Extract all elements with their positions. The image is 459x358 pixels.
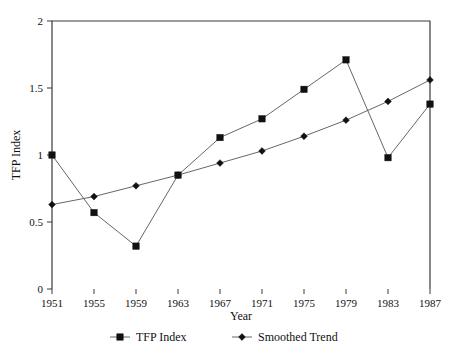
data-point-marker-square bbox=[117, 334, 123, 340]
x-tick-label: 1983 bbox=[377, 297, 400, 309]
legend-label: Smoothed Trend bbox=[258, 330, 338, 344]
data-point-marker-square bbox=[301, 86, 307, 92]
data-point-marker-square bbox=[49, 152, 55, 158]
series-line bbox=[52, 80, 430, 205]
x-axis-ticks bbox=[52, 289, 430, 294]
chart-figure: 00.511.52 195119551959196319671971197519… bbox=[0, 0, 459, 358]
data-point-marker-diamond bbox=[239, 334, 246, 341]
y-tick-label: 0 bbox=[38, 283, 44, 295]
data-point-marker-square bbox=[427, 101, 433, 107]
x-tick-label: 1963 bbox=[167, 297, 190, 309]
data-point-marker-square bbox=[91, 209, 97, 215]
data-point-marker-square bbox=[133, 243, 139, 249]
data-point-marker-diamond bbox=[259, 148, 266, 155]
plot-border bbox=[52, 21, 430, 289]
legend-label: TFP Index bbox=[136, 330, 187, 344]
chart-legend: TFP IndexSmoothed Trend bbox=[110, 330, 338, 344]
series-tfp-index bbox=[49, 57, 433, 250]
y-tick-label: 0.5 bbox=[29, 216, 43, 228]
x-axis-title: Year bbox=[230, 309, 252, 323]
data-point-marker-square bbox=[343, 57, 349, 63]
x-tick-label: 1955 bbox=[83, 297, 106, 309]
data-point-marker-diamond bbox=[49, 201, 56, 208]
plot-frame bbox=[52, 21, 430, 289]
data-point-marker-square bbox=[385, 154, 391, 160]
legend-item-tfp-index[interactable]: TFP Index bbox=[110, 330, 187, 344]
legend-item-smoothed-trend[interactable]: Smoothed Trend bbox=[232, 330, 338, 344]
data-point-marker-square bbox=[259, 116, 265, 122]
x-tick-label: 1951 bbox=[41, 297, 63, 309]
y-axis-tick-labels: 00.511.52 bbox=[29, 15, 43, 295]
data-point-marker-diamond bbox=[385, 98, 392, 105]
y-tick-label: 1 bbox=[38, 149, 44, 161]
series-line bbox=[52, 60, 430, 246]
data-point-marker-diamond bbox=[91, 193, 98, 200]
y-axis-title: TFP Index bbox=[9, 130, 23, 181]
x-tick-label: 1975 bbox=[293, 297, 316, 309]
data-point-marker-diamond bbox=[301, 133, 308, 140]
x-tick-label: 1987 bbox=[419, 297, 442, 309]
tfp-index-line-chart: 00.511.52 195119551959196319671971197519… bbox=[0, 0, 459, 358]
x-tick-label: 1971 bbox=[251, 297, 273, 309]
data-point-marker-diamond bbox=[343, 117, 350, 124]
data-point-marker-diamond bbox=[427, 77, 434, 84]
x-axis-tick-labels: 1951195519591963196719711975197919831987 bbox=[41, 297, 442, 309]
series-smoothed-trend bbox=[49, 77, 434, 208]
data-point-marker-diamond bbox=[133, 182, 140, 189]
x-tick-label: 1959 bbox=[125, 297, 148, 309]
x-tick-label: 1967 bbox=[209, 297, 232, 309]
data-series-group bbox=[49, 57, 434, 250]
x-tick-label: 1979 bbox=[335, 297, 358, 309]
y-tick-label: 2 bbox=[38, 15, 44, 27]
data-point-marker-square bbox=[217, 134, 223, 140]
y-tick-label: 1.5 bbox=[29, 82, 43, 94]
data-point-marker-diamond bbox=[217, 160, 224, 167]
